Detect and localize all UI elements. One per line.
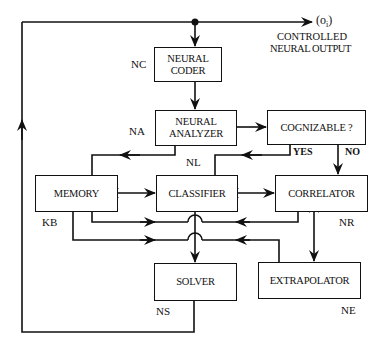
correlator-box: CORRELATOR xyxy=(275,175,368,212)
no-label: NO xyxy=(345,146,360,158)
nc-tag: NC xyxy=(131,58,146,70)
neural-analyzer-line2: ANALYZER xyxy=(169,128,223,140)
kb-tag: KB xyxy=(42,216,57,228)
neural-coder-line2: CODER xyxy=(171,65,206,77)
extrapolator-box: EXTRAPOLATOR xyxy=(258,262,361,299)
cognizable-box: COGNIZABLE ? xyxy=(267,110,366,145)
classifier-label: CLASSIFIER xyxy=(169,188,226,200)
correlator-label: CORRELATOR xyxy=(288,188,355,200)
extrapolator-label: EXTRAPOLATOR xyxy=(270,275,350,287)
nr-tag: NR xyxy=(339,216,354,228)
nl-tag: NL xyxy=(186,156,201,168)
solver-label: SOLVER xyxy=(176,276,215,288)
classifier-box: CLASSIFIER xyxy=(156,175,238,212)
neural-coder-line1: NEURAL xyxy=(167,53,208,65)
memory-label: MEMORY xyxy=(54,188,99,200)
neural-coder-box: NEURAL CODER xyxy=(154,47,222,82)
yes-label: YES xyxy=(293,146,312,158)
solver-box: SOLVER xyxy=(154,263,237,301)
na-tag: NA xyxy=(129,125,145,137)
output-symbol: (oi) xyxy=(316,14,332,31)
cognizable-label: COGNIZABLE ? xyxy=(281,122,353,134)
neural-analyzer-line1: NEURAL xyxy=(175,116,216,128)
junction-dot xyxy=(192,19,199,26)
memory-box: MEMORY xyxy=(35,175,118,212)
output-caption-line2: NEURAL OUTPUT xyxy=(270,43,351,55)
ne-tag: NE xyxy=(341,304,356,316)
ns-tag: NS xyxy=(156,305,170,317)
neural-analyzer-box: NEURAL ANALYZER xyxy=(155,110,237,146)
output-caption-line1: CONTROLLED xyxy=(277,31,347,43)
